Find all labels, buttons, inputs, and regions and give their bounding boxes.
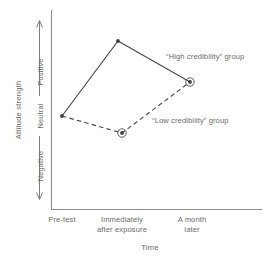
xlabel-immediately-line1: Immediately [101, 215, 143, 224]
y-axis-title: Attitude strength [14, 81, 23, 140]
xlabel-immediately-line2: after exposure [97, 225, 147, 234]
axis-lines [52, 10, 263, 210]
xlabel-amonth-line2: later [184, 225, 200, 234]
annotation-high-credibility: “High credibility” group [166, 52, 244, 61]
marker-pretest-shared [60, 114, 64, 118]
marker-high-immediate [116, 39, 120, 43]
chart-figure: Positive Neutral Negative Attitude stren… [0, 0, 268, 261]
x-axis-title: Time [141, 243, 158, 252]
marker-low-immediate [120, 131, 124, 135]
xlabel-pretest: Pre-test [48, 215, 76, 224]
y-tick-labels: Positive Neutral Negative [36, 58, 45, 181]
ytick-positive: Positive [36, 58, 45, 85]
axes-group [52, 10, 263, 210]
line-chart-svg: Positive Neutral Negative Attitude stren… [0, 0, 268, 261]
xlabel-amonth-line1: A month [178, 215, 207, 224]
x-category-labels: Pre-test Immediately after exposure A mo… [48, 215, 206, 234]
annotation-low-credibility: “Low credibility” group [152, 116, 229, 125]
marker-converge-month [188, 80, 192, 84]
ytick-negative: Negative [36, 151, 45, 181]
ytick-neutral: Neutral [36, 103, 45, 128]
